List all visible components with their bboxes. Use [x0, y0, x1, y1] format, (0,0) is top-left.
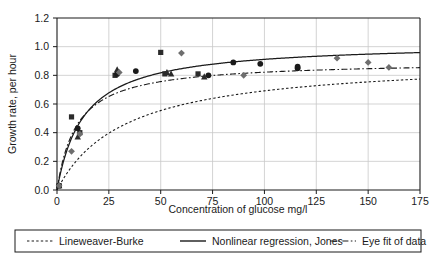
legend-items: Lineweaver-BurkeNonlinear regression, Jo… [27, 235, 426, 247]
y-tick-label: 0.2 [34, 155, 49, 167]
data-point-circle [295, 64, 301, 70]
y-tick-label: 1.2 [34, 12, 49, 24]
chart-figure: 0255075100125150175 0.00.20.40.60.81.01.… [0, 0, 436, 261]
chart-legend: Lineweaver-BurkeNonlinear regression, Jo… [15, 230, 426, 252]
legend-label-1: Nonlinear regression, Jones [212, 235, 343, 247]
data-point-circle [230, 60, 236, 66]
x-tick-label: 175 [411, 195, 429, 207]
data-point-circle [133, 68, 139, 74]
y-tick-label: 0.4 [34, 126, 49, 138]
y-tick-label: 1.0 [34, 40, 49, 52]
data-point-square [69, 114, 74, 119]
data-point-square [195, 71, 200, 76]
legend-label-0: Lineweaver-Burke [59, 235, 144, 247]
y-tick-label: 0.6 [34, 98, 49, 110]
x-tick-label: 125 [308, 195, 326, 207]
legend-label-2: Eye fit of data [362, 235, 426, 247]
scatter-plot-svg: 0255075100125150175 0.00.20.40.60.81.01.… [0, 0, 436, 261]
x-tick-label: 50 [155, 195, 167, 207]
y-tick-label: 0.8 [34, 69, 49, 81]
plot-area [56, 18, 420, 190]
x-axis-title: Concentration of glucose mg/l [169, 203, 308, 215]
x-tick-label: 0 [54, 195, 60, 207]
data-point-square [158, 50, 163, 55]
data-point-circle [257, 61, 263, 67]
y-tick-label: 0.0 [34, 184, 49, 196]
x-tick-label: 25 [103, 195, 115, 207]
x-tick-label: 150 [359, 195, 377, 207]
data-point-circle [75, 125, 81, 131]
y-axis-title: Growth rate, per hour [6, 54, 18, 154]
